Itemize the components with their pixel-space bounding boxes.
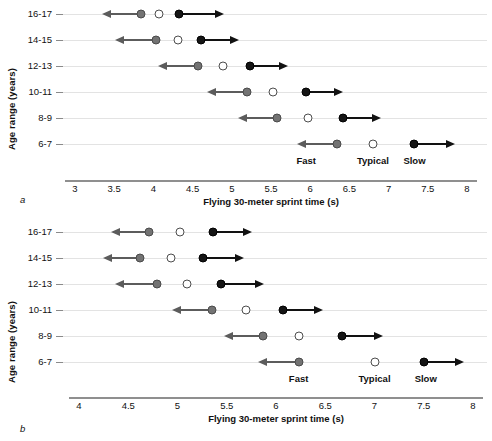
legend-label-slow: Slow [415,373,437,384]
data-point-fast [332,140,341,149]
data-point-typical [219,62,228,71]
data-point-fast [194,62,203,71]
data-point-fast [294,358,303,367]
y-axis-tick-mark [56,40,63,41]
legend-label-fast: Fast [296,155,316,166]
data-point-slow [409,140,418,149]
arrow-head-faster-icon [102,10,111,18]
y-axis-tick-label: 14-15 [0,34,52,45]
x-axis-tick-label: 6 [308,183,313,194]
arrow-head-faster-icon [207,88,216,96]
y-axis-tick-mark [56,232,63,233]
data-point-typical [154,10,163,19]
chart-panel-a: Age range (years) 16-1714-1512-1310-118-… [0,0,492,210]
data-point-fast [151,36,160,45]
y-axis-tick-mark [56,362,63,363]
y-axis-tick-label: 12-13 [0,60,52,71]
x-axis-tick-label: 6 [273,400,278,411]
data-point-slow [278,306,287,315]
y-axis-tick-mark [56,336,63,337]
plot-area-a: Age range (years) 16-1714-1512-1310-118-… [0,0,492,210]
y-axis-tick-label: 10-11 [0,304,52,315]
arrow-head-faster-icon [158,62,167,70]
data-point-typical [303,114,312,123]
legend-label-slow: Slow [403,155,425,166]
arrow-head-slower-icon [455,358,464,366]
x-axis-tick-label: 6.5 [319,400,332,411]
x-axis-tick-label: 4.5 [186,183,199,194]
data-point-slow [199,254,208,263]
x-axis-tick-label: 5 [175,400,180,411]
gridline [62,310,487,311]
y-axis-tick-label: 8-9 [0,112,52,123]
data-point-typical [294,332,303,341]
y-axis-tick-mark [56,258,63,259]
data-point-slow [339,114,348,123]
arrow-head-slower-icon [334,88,343,96]
data-point-slow [245,62,254,71]
x-axis-tick-label: 7.5 [421,183,434,194]
arrow-head-slower-icon [446,140,455,148]
x-axis-label-b: Flying 30-meter sprint time (s) [208,413,344,424]
data-point-slow [216,280,225,289]
arrow-slower [221,283,256,285]
data-point-typical [269,88,278,97]
x-axis-tick-label: 7.5 [417,400,430,411]
arrow-head-faster-icon [115,36,124,44]
legend-label-fast: Fast [289,373,309,384]
arrow-head-faster-icon [103,254,112,262]
chart-panel-b: Age range (years) 16-1714-1512-1310-118-… [0,215,492,441]
arrow-slower [179,13,216,15]
data-point-fast [152,280,161,289]
x-axis-tick-label: 6.5 [343,183,356,194]
gridline [62,336,487,337]
y-axis-tick-mark [56,284,63,285]
arrow-head-faster-icon [115,280,124,288]
y-axis-tick-mark [56,310,63,311]
arrow-head-slower-icon [314,306,323,314]
arrow-head-slower-icon [215,10,224,18]
x-axis-tick-label: 3 [72,183,77,194]
arrow-head-slower-icon [372,114,381,122]
data-point-typical [368,140,377,149]
x-axis-tick-label: 7 [386,183,391,194]
data-point-typical [173,36,182,45]
arrow-head-faster-icon [238,114,247,122]
arrow-head-faster-icon [297,140,306,148]
arrow-head-slower-icon [243,228,252,236]
y-axis-tick-label: 16-17 [0,8,52,19]
x-axis-label-a: Flying 30-meter sprint time (s) [203,196,339,207]
arrow-head-faster-icon [111,228,120,236]
y-axis-tick-mark [56,14,63,15]
x-axis-line-a [65,180,477,182]
x-axis-line-b [69,397,483,399]
arrow-slower [203,257,235,259]
data-point-slow [337,332,346,341]
y-axis-tick-label: 12-13 [0,278,52,289]
arrow-head-faster-icon [258,358,267,366]
arrow-slower [414,143,448,145]
x-axis-tick-label: 3.5 [108,183,121,194]
panel-letter-a: a [20,194,25,205]
arrow-head-slower-icon [374,332,383,340]
data-point-typical [242,306,251,315]
plot-area-b: Age range (years) 16-1714-1512-1310-118-… [0,215,492,441]
data-point-fast [242,88,251,97]
x-axis-tick-label: 4.5 [122,400,135,411]
data-point-typical [166,254,175,263]
data-point-slow [208,228,217,237]
x-axis-tick-label: 5 [229,183,234,194]
arrow-head-slower-icon [279,62,288,70]
y-axis-tick-label: 10-11 [0,86,52,97]
y-axis-tick-label: 16-17 [0,226,52,237]
y-axis-tick-mark [56,92,63,93]
panel-letter-b: b [20,423,25,434]
arrow-head-slower-icon [235,254,244,262]
y-axis-tick-mark [56,118,63,119]
data-point-typical [183,280,192,289]
y-axis-tick-label: 6-7 [0,138,52,149]
legend-label-typical: Typical [357,155,389,166]
data-point-typical [176,228,185,237]
data-point-fast [259,332,268,341]
x-axis-tick-label: 5.5 [220,400,233,411]
